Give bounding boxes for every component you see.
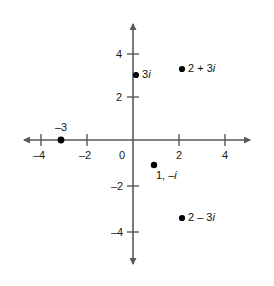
x-tick-label-4: 4: [222, 150, 228, 161]
y-tick-label-minus4: –4: [111, 227, 123, 238]
point-one-minus-i: [151, 162, 157, 168]
point-three-i: [133, 72, 139, 78]
point-label-three-i: 3i3i: [142, 69, 151, 80]
x-tick-label-2: 2: [176, 150, 182, 161]
y-tick-label-4: 4: [116, 49, 122, 60]
y-tick-label-2: 2: [116, 92, 122, 103]
point-label-one-minus-i: 1, –i1, –i: [156, 170, 177, 181]
complex-plane-figure: –4 –2 0 2 4 4 2 –2 –4 3i3i 2 + 3i2 + 3i …: [0, 0, 274, 286]
data-points: [58, 66, 185, 221]
point-negative-three: [58, 137, 65, 144]
x-tick-label-zero: 0: [119, 150, 125, 161]
x-tick-label-minus2: –2: [79, 150, 91, 161]
point-label-two-plus-three-i: 2 + 3i2 + 3i: [188, 63, 215, 74]
point-two-minus-three-i: [179, 215, 185, 221]
x-tick-label-minus4: –4: [33, 150, 45, 161]
point-two-plus-three-i: [179, 66, 185, 72]
y-tick-label-minus2: –2: [111, 181, 123, 192]
point-label-negative-three: –3–3: [55, 122, 67, 133]
point-label-two-minus-three-i: 2 – 3i2 – 3i: [188, 212, 215, 223]
axes-canvas: [0, 0, 274, 286]
